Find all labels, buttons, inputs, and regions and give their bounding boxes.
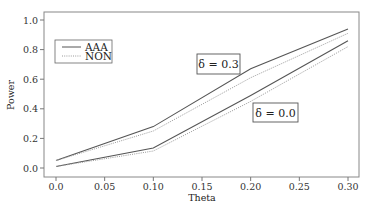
x-tick-label: 0.15	[191, 181, 212, 192]
annotation-delta-0-0: δ = 0.0	[253, 103, 298, 122]
y-axis-title: Power	[5, 80, 16, 110]
y-tick-label: 0.8	[23, 44, 38, 55]
power-vs-theta-chart: 0.00.20.40.60.81.0 0.00.050.100.150.200.…	[0, 0, 371, 209]
annotation-label: δ = 0.3	[198, 58, 238, 71]
annotation-delta-0-3: δ = 0.3	[197, 54, 240, 74]
x-tick-label: 0.30	[337, 181, 358, 192]
y-axis: 0.00.20.40.60.81.0	[23, 15, 44, 174]
annotation-label: δ = 0.0	[255, 107, 295, 120]
x-tick-label: 0.25	[289, 181, 310, 192]
x-tick-label: 0.10	[143, 181, 164, 192]
y-tick-label: 0.0	[23, 163, 38, 174]
x-axis-title: Theta	[188, 192, 216, 203]
x-tick-label: 0.05	[94, 181, 115, 192]
x-tick-label: 0.0	[48, 181, 63, 192]
y-tick-label: 0.2	[23, 133, 38, 144]
x-tick-label: 0.20	[240, 181, 261, 192]
y-tick-label: 0.4	[23, 103, 38, 114]
y-tick-label: 0.6	[23, 74, 38, 85]
legend: AAA NON	[55, 40, 112, 63]
plot-frame	[44, 12, 359, 177]
x-axis: 0.00.050.100.150.200.250.30	[48, 177, 358, 192]
legend-label-non: NON	[85, 50, 112, 62]
y-tick-label: 1.0	[23, 15, 38, 26]
